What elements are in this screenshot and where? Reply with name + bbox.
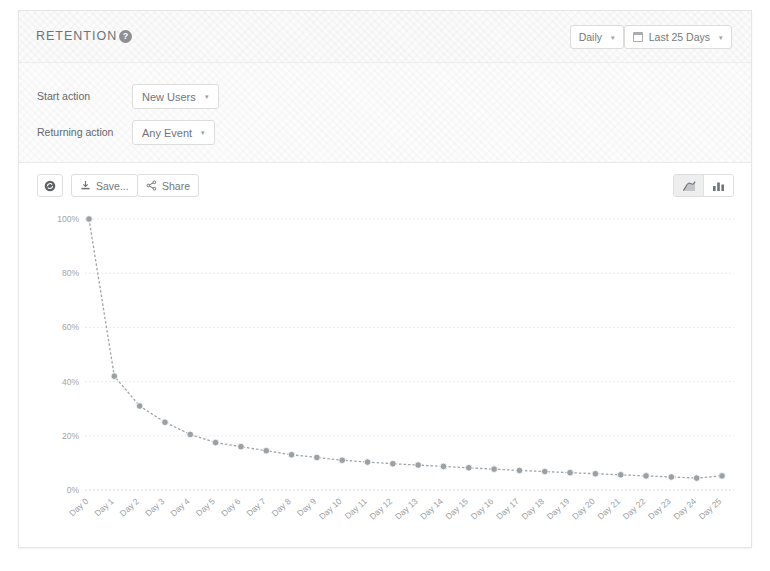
chart-type-line-button[interactable] <box>674 175 703 196</box>
data-point[interactable] <box>238 443 245 450</box>
x-axis-tick: Day 0 <box>67 496 90 518</box>
interval-select-value: Daily <box>579 31 602 43</box>
interval-select[interactable]: Daily ▾ <box>570 25 624 49</box>
refresh-button[interactable] <box>37 174 63 197</box>
data-point[interactable] <box>136 403 143 410</box>
bar-chart-icon <box>712 180 725 192</box>
data-point[interactable] <box>212 439 219 446</box>
page-title: RETENTION <box>36 29 117 43</box>
data-point[interactable] <box>314 454 321 461</box>
x-axis-tick: Day 13 <box>393 496 420 522</box>
data-point[interactable] <box>516 467 523 474</box>
x-axis-tick: Day 18 <box>519 496 546 522</box>
data-point[interactable] <box>288 451 295 458</box>
chevron-down-icon: ▾ <box>205 93 209 100</box>
chevron-down-icon: ▾ <box>611 34 615 41</box>
download-icon <box>80 180 91 191</box>
x-axis-tick: Day 2 <box>118 496 141 518</box>
x-axis-tick: Day 8 <box>270 496 293 518</box>
returning-action-label: Returning action <box>37 126 113 138</box>
x-axis-tick: Day 7 <box>244 496 267 518</box>
chart-gridlines <box>85 219 734 490</box>
y-axis-tick: 60% <box>62 322 79 332</box>
save-button[interactable]: Save... <box>71 174 138 197</box>
x-axis-tick: Day 9 <box>295 496 318 518</box>
chart-type-bar-button[interactable] <box>703 175 733 196</box>
chart-series <box>86 216 726 482</box>
x-axis-tick: Day 20 <box>570 496 597 522</box>
x-axis-tick: Day 17 <box>494 496 521 522</box>
data-point[interactable] <box>263 447 270 454</box>
data-point[interactable] <box>440 463 447 470</box>
chart-x-axis-labels: Day 0Day 1Day 2Day 3Day 4Day 5Day 6Day 7… <box>67 496 723 522</box>
start-action-value: New Users <box>142 91 196 103</box>
card-header: RETENTION ? Daily ▾ Last 25 Days ▾ <box>19 11 751 63</box>
question-mark-icon[interactable]: ? <box>119 30 132 43</box>
share-button-label: Share <box>162 180 190 192</box>
refresh-icon <box>44 180 56 192</box>
data-point[interactable] <box>693 475 700 482</box>
x-axis-tick: Day 12 <box>367 496 394 522</box>
chart-canvas: 0%20%40%60%80%100% Day 0Day 1Day 2Day 3D… <box>19 211 752 548</box>
data-point[interactable] <box>187 431 194 438</box>
filter-row-returning-action: Returning action Any Event ▾ <box>19 120 751 146</box>
x-axis-tick: Day 19 <box>545 496 572 522</box>
x-axis-tick: Day 24 <box>671 496 698 522</box>
chart-type-toggle <box>673 174 734 197</box>
returning-action-value: Any Event <box>142 127 192 139</box>
data-point[interactable] <box>592 470 599 477</box>
x-axis-tick: Day 23 <box>646 496 673 522</box>
x-axis-tick: Day 5 <box>194 496 217 518</box>
data-point[interactable] <box>339 457 346 464</box>
data-point[interactable] <box>719 473 726 480</box>
start-action-select[interactable]: New Users ▾ <box>132 84 219 109</box>
calendar-icon <box>633 32 643 42</box>
chart-toolbar: Save... Share <box>19 163 751 211</box>
data-point[interactable] <box>86 216 93 223</box>
line-chart-icon <box>682 180 696 192</box>
x-axis-tick: Day 14 <box>418 496 445 522</box>
x-axis-tick: Day 1 <box>92 496 115 518</box>
filter-panel: Start action New Users ▾ Returning actio… <box>19 63 751 163</box>
y-axis-tick: 40% <box>62 377 79 387</box>
chevron-down-icon: ▾ <box>719 34 723 41</box>
x-axis-tick: Day 25 <box>697 496 724 522</box>
daterange-select[interactable]: Last 25 Days ▾ <box>624 25 732 49</box>
data-point[interactable] <box>541 468 548 475</box>
start-action-label: Start action <box>37 90 90 102</box>
data-point[interactable] <box>668 474 675 481</box>
data-point[interactable] <box>466 464 473 471</box>
x-axis-tick: Day 10 <box>317 496 344 522</box>
filter-row-start-action: Start action New Users ▾ <box>19 84 751 110</box>
retention-chart: 0%20%40%60%80%100% Day 0Day 1Day 2Day 3D… <box>19 211 751 548</box>
y-axis-tick: 20% <box>62 431 79 441</box>
data-point[interactable] <box>111 373 118 380</box>
y-axis-tick: 80% <box>62 268 79 278</box>
x-axis-tick: Day 22 <box>621 496 648 522</box>
data-point[interactable] <box>415 462 422 469</box>
x-axis-tick: Day 21 <box>595 496 622 522</box>
data-point[interactable] <box>491 466 498 473</box>
daterange-select-value: Last 25 Days <box>649 31 710 43</box>
data-point[interactable] <box>390 460 397 467</box>
x-axis-tick: Day 11 <box>343 496 369 521</box>
data-point[interactable] <box>643 473 650 480</box>
retention-card: RETENTION ? Daily ▾ Last 25 Days ▾ Start… <box>18 10 752 548</box>
data-point[interactable] <box>364 459 371 466</box>
chevron-down-icon: ▾ <box>201 129 205 136</box>
retention-line <box>89 219 722 478</box>
share-button[interactable]: Share <box>137 174 199 197</box>
share-icon <box>146 180 157 191</box>
x-axis-tick: Day 4 <box>168 496 191 518</box>
x-axis-tick: Day 15 <box>443 496 470 522</box>
x-axis-tick: Day 6 <box>219 496 242 518</box>
chart-y-axis-labels: 0%20%40%60%80%100% <box>57 214 79 495</box>
y-axis-tick: 100% <box>57 214 79 224</box>
returning-action-select[interactable]: Any Event ▾ <box>132 120 215 145</box>
x-axis-tick: Day 3 <box>143 496 166 518</box>
x-axis-tick: Day 16 <box>469 496 496 522</box>
save-button-label: Save... <box>96 180 129 192</box>
data-point[interactable] <box>162 419 169 426</box>
data-point[interactable] <box>617 472 624 479</box>
data-point[interactable] <box>567 469 574 476</box>
